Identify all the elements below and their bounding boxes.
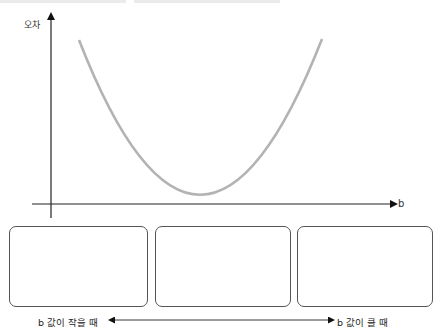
error-curve [79,39,322,195]
panel-frame-optimal [155,226,291,307]
panel-frame-large-b [297,226,433,307]
large-b-label: b 값이 클 때 [337,315,388,329]
panel-frame-small-b [9,226,148,307]
small-b-label: b 값이 작을 때 [38,315,98,329]
